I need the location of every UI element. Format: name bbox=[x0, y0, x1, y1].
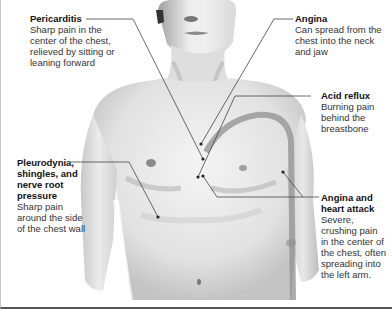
navel bbox=[197, 279, 201, 285]
label-title: Acid reflux bbox=[321, 90, 389, 101]
diagram-frame: Pericarditis Sharp pain in the center of… bbox=[0, 0, 392, 309]
label-description: Sharp pain in the center of the chest, r… bbox=[30, 24, 130, 68]
label-description: Sharp pain around the side of the chest … bbox=[17, 201, 89, 234]
label-title: Angina bbox=[295, 13, 387, 24]
label-pericarditis: Pericarditis Sharp pain in the center of… bbox=[30, 13, 130, 68]
label-title: Pericarditis bbox=[30, 13, 130, 24]
right-nipple bbox=[239, 165, 247, 171]
label-title: Angina and heart attack bbox=[321, 192, 387, 214]
label-angina: Angina Can spread from the chest into th… bbox=[295, 13, 387, 57]
label-description: Burning pain behind the breastbone bbox=[321, 101, 389, 134]
label-description: Severe, crushing pain in the center of t… bbox=[321, 214, 387, 280]
label-title: Pleurodynia, shingles, and nerve root pr… bbox=[17, 157, 89, 201]
label-acid-reflux: Acid reflux Burning pain behind the brea… bbox=[321, 90, 389, 134]
torso bbox=[81, 78, 319, 300]
label-description: Can spread from the chest into the neck … bbox=[295, 24, 387, 57]
left-nipple bbox=[146, 159, 156, 167]
label-pleurodynia: Pleurodynia, shingles, and nerve root pr… bbox=[17, 157, 89, 234]
label-heart-attack: Angina and heart attack Severe, crushing… bbox=[321, 192, 387, 280]
